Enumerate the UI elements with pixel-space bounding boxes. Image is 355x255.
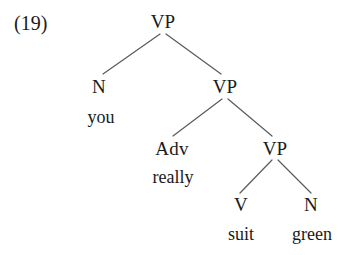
syntax-tree-figure: (19) VPNVPAdvVPVN youreallysuitgreen	[0, 0, 355, 255]
tree-branch-vp3-v1	[240, 160, 272, 193]
tree-leaf-you: you	[88, 108, 115, 126]
tree-node-vp3: VP	[263, 139, 288, 158]
tree-leaf-really: really	[153, 168, 194, 186]
tree-leaf-green: green	[292, 225, 332, 243]
tree-branch-vp1-vp2	[166, 34, 221, 74]
tree-branch-vp2-vp3	[228, 99, 272, 136]
tree-node-vp1: VP	[151, 12, 176, 31]
tree-node-n1: N	[92, 77, 106, 96]
tree-node-adv: Adv	[155, 139, 188, 158]
tree-branch-vp1-n1	[103, 34, 160, 74]
tree-leaf-suit: suit	[228, 225, 254, 243]
tree-node-n2: N	[304, 195, 318, 214]
tree-branch-vp3-n2	[278, 160, 311, 193]
tree-branch-vp2-adv	[173, 99, 222, 136]
tree-node-v1: V	[234, 195, 248, 214]
tree-node-vp2: VP	[213, 77, 238, 96]
tree-branch-lines	[0, 0, 355, 255]
